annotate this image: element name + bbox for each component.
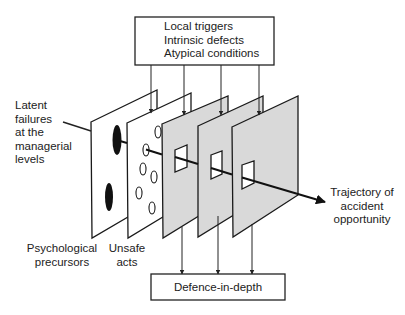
defence-in-depth-label: Defence-in-depth	[174, 281, 262, 293]
top-box-line-atypical-conditions: Atypical conditions	[164, 47, 259, 59]
trajectory-label-line: accident	[341, 200, 385, 212]
hole-open-icon	[136, 187, 142, 199]
hole-solid-icon	[113, 125, 122, 155]
unsafe-label-line: acts	[116, 256, 137, 268]
psychological-precursors-label: Psychological precursors	[27, 242, 97, 268]
top-box-line-intrinsic-defects: Intrinsic defects	[164, 34, 244, 46]
left-label-line: failures	[15, 113, 52, 125]
leader-line	[63, 122, 91, 131]
hole-window-icon	[211, 151, 222, 179]
trajectory-label-line: Trajectory of	[330, 186, 394, 198]
latent-failures-label: Latent failures at the managerial levels	[15, 99, 91, 165]
swiss-cheese-diagram: Local triggers Intrinsic defects Atypica…	[0, 0, 405, 315]
unsafe-label-line: Unsafe	[109, 242, 145, 254]
trajectory-label-line: opportunity	[334, 213, 391, 225]
hole-solid-icon	[105, 183, 113, 211]
top-box-line-local-triggers: Local triggers	[164, 20, 233, 32]
top-box: Local triggers Intrinsic defects Atypica…	[135, 17, 274, 65]
left-label-line: Latent	[15, 99, 48, 111]
hole-open-icon	[140, 163, 146, 175]
left-label-line: at the	[15, 126, 44, 138]
left-label-line: levels	[15, 153, 45, 165]
hole-open-icon	[149, 202, 155, 214]
defence-in-depth-box: Defence-in-depth	[151, 274, 285, 300]
trajectory-label: Trajectory of accident opportunity	[330, 186, 394, 225]
psych-label-line: Psychological	[27, 242, 97, 254]
psych-label-line: precursors	[35, 256, 90, 268]
left-label-line: managerial	[15, 140, 72, 152]
hole-open-icon	[155, 126, 161, 138]
unsafe-acts-label: Unsafe acts	[109, 242, 145, 268]
hole-open-icon	[151, 171, 157, 183]
